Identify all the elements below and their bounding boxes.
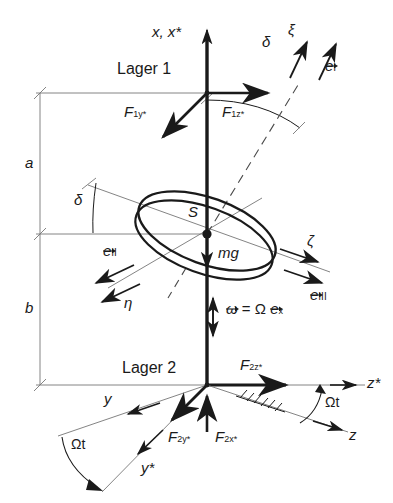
diagram-canvas: [0, 0, 393, 503]
eta-arrow: [102, 284, 140, 302]
force-label-f2x: F2x*: [215, 429, 237, 444]
vector-overbar-omega: [226, 298, 238, 303]
omega-t-arc-left-head: [86, 479, 103, 491]
center-of-mass-label: S: [188, 204, 198, 219]
f2y-force-arrow: [172, 385, 207, 420]
angle-label-omega-t-right: Ωt: [325, 395, 339, 409]
delta-arc-disk: [93, 183, 96, 233]
axis-label-y-star: y*: [141, 460, 154, 475]
omega-t-arc-right: [300, 389, 322, 423]
force-label-f1y: F1y*: [124, 104, 146, 119]
axis-label-xi: ξ: [288, 22, 295, 37]
construction-lines: [34, 87, 207, 391]
unit-vector-label-e3: eIII: [310, 287, 327, 302]
axis-label-zeta: ζ: [307, 233, 314, 248]
force-label-f2z: F2z*: [240, 357, 262, 372]
zeta-vector-arrows: [280, 249, 322, 283]
gyroscope-diagram: x, x* δ ξ eI Lager 1 F1y* F1z* a b δ S m…: [0, 0, 393, 503]
unit-vector-label-e2: eII: [103, 243, 117, 258]
angle-label-delta-disk: δ: [74, 192, 82, 207]
y-axis-arrow: [128, 403, 160, 414]
bearing2-joint: [205, 383, 210, 388]
bearing1-label: Lager 1: [117, 61, 171, 77]
z-axis-arrow: [313, 421, 342, 430]
dimension-label-a: a: [25, 155, 33, 170]
bearing2-label: Lager 2: [122, 360, 176, 376]
omega-t-arc-right-head: [315, 384, 326, 394]
vector-overbar-e2: [103, 240, 117, 245]
ground-hatching: [236, 390, 285, 412]
angle-label-omega-t-left: Ωt: [71, 437, 85, 451]
unit-vector-label-e1: eI: [325, 58, 336, 73]
xi-arrow: [290, 42, 307, 78]
eta-vector-arrows: [96, 265, 140, 302]
vector-overbar-e1: [325, 55, 336, 60]
equals-sign: =: [242, 300, 251, 317]
vector-overbar-e3: [310, 284, 327, 289]
axis-label-x-star: x, x*: [152, 24, 181, 39]
axis-label-y: y: [104, 391, 112, 406]
e2-arrow: [96, 265, 134, 283]
force-label-f1z: F1z*: [222, 104, 244, 119]
e3-arrow: [284, 270, 322, 283]
bearing1-joint: [205, 91, 210, 96]
e2-axis-line: [108, 198, 262, 288]
force-label-f2y: F2y*: [168, 429, 190, 444]
axis-label-z: z: [349, 427, 357, 442]
axis-label-eta: η: [124, 295, 132, 310]
center-of-mass-point: [202, 229, 211, 238]
weight-label-mg: mg: [218, 245, 239, 260]
dimension-label-b: b: [25, 300, 33, 315]
omega-capital: Ω: [255, 300, 266, 317]
zeta-arrow: [280, 249, 318, 262]
axis-label-z-star: z*: [367, 375, 380, 390]
y-star-axis-arrow: [138, 430, 163, 454]
f1y-force-arrow: [163, 93, 207, 137]
eta-axis-dashed: [168, 268, 186, 298]
angular-velocity-label: ω = Ω ex: [226, 301, 283, 316]
angle-label-delta-top: δ: [262, 34, 270, 49]
vector-overbar-ex: [270, 298, 283, 303]
